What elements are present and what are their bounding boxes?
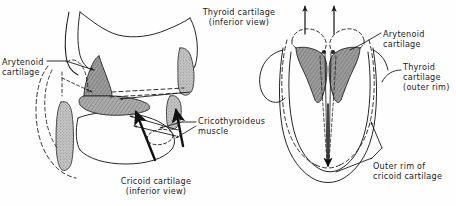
caption-thyroid-cartilage-inferior-view: Thyroid cartilage (inferior view) (193, 7, 285, 27)
label-thyroid-cartilage-outer-rim: Thyroid cartilage (outer rim) (403, 62, 455, 92)
caption-cricoid-cartilage-inferior-view: Cricoid cartilage (inferior view) (103, 176, 209, 196)
label-arytenoid-cartilage-right: Arytenoid cartilage (383, 29, 453, 49)
anatomical-figure: Thyroid cartilage (inferior view) Aryten… (0, 0, 456, 206)
right-panel-drawing (260, 6, 401, 183)
label-outer-rim-of-cricoid-cartilage: Outer rim of cricoid cartilage (373, 161, 455, 181)
left-panel-drawing (36, 12, 197, 178)
label-arytenoid-cartilage-left: Arytenoid cartilage (2, 57, 60, 77)
label-cricothyroideus-muscle: Cricothyroideus muscle (198, 116, 282, 136)
